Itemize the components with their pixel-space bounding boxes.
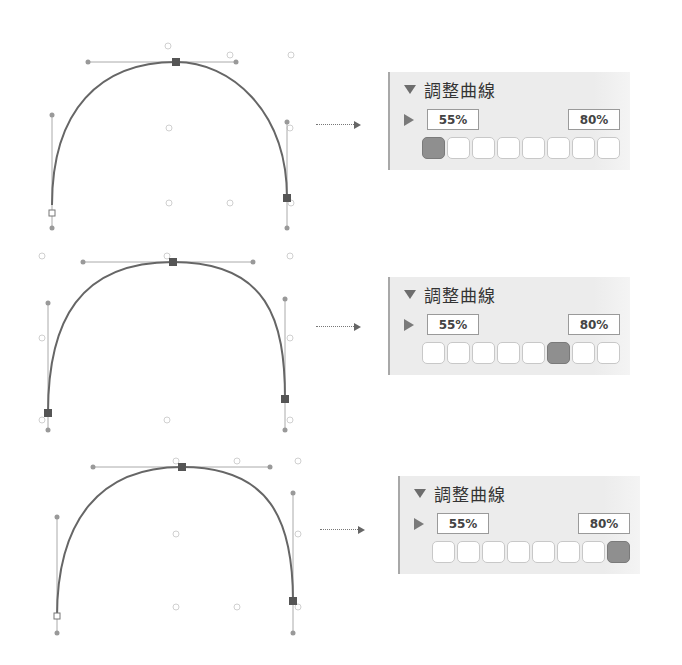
handle-point[interactable] bbox=[86, 60, 91, 65]
curve-preset-swatch-1[interactable] bbox=[422, 342, 445, 364]
arrow-head-icon bbox=[354, 323, 361, 331]
anchor-point[interactable] bbox=[172, 58, 180, 66]
curve-preset-swatch-2[interactable] bbox=[447, 342, 470, 364]
curve-preset-swatch-3[interactable] bbox=[472, 137, 495, 159]
anchor-point[interactable] bbox=[289, 597, 297, 605]
max-value-field[interactable]: 80% bbox=[578, 513, 630, 534]
curve-preset-swatch-7[interactable] bbox=[572, 342, 595, 364]
curve-preset-swatches bbox=[422, 342, 620, 364]
arrow-dotted-line bbox=[316, 326, 354, 327]
handle-point[interactable] bbox=[285, 226, 290, 231]
arrow-dotted-line bbox=[320, 529, 358, 530]
arrow-2 bbox=[316, 323, 362, 331]
curve-preset-swatch-8[interactable] bbox=[597, 342, 620, 364]
curve-preset-swatch-4[interactable] bbox=[497, 342, 520, 364]
handle-point[interactable] bbox=[285, 120, 290, 125]
handle-point[interactable] bbox=[55, 515, 60, 520]
curve-preset-swatch-5[interactable] bbox=[532, 541, 555, 563]
curve-preset-swatch-8[interactable] bbox=[607, 541, 630, 563]
bezier-path-2[interactable] bbox=[48, 262, 285, 413]
grid-guide-point bbox=[287, 253, 293, 259]
grid-guide-point bbox=[173, 531, 179, 537]
anchor-point[interactable] bbox=[44, 409, 52, 417]
curve-preset-swatch-2[interactable] bbox=[447, 137, 470, 159]
grid-guide-point bbox=[227, 200, 233, 206]
handle-point[interactable] bbox=[251, 260, 256, 265]
handle-point[interactable] bbox=[50, 226, 55, 231]
arrow-3 bbox=[320, 526, 366, 534]
grid-guide-point bbox=[234, 604, 240, 610]
curve-preset-swatch-7[interactable] bbox=[582, 541, 605, 563]
min-value-field[interactable]: 55% bbox=[437, 513, 489, 534]
disclosure-triangle-down-icon[interactable] bbox=[404, 290, 416, 299]
grid-guide-point bbox=[39, 253, 45, 259]
arrow-head-icon bbox=[358, 526, 365, 534]
bezier-curve-1[interactable] bbox=[0, 0, 360, 665]
max-value-field[interactable]: 80% bbox=[568, 109, 620, 130]
bezier-path-1[interactable] bbox=[52, 62, 287, 205]
open-anchor-point[interactable] bbox=[54, 613, 60, 619]
curve-preset-swatch-4[interactable] bbox=[507, 541, 530, 563]
curve-preset-swatch-5[interactable] bbox=[522, 342, 545, 364]
min-value-field[interactable]: 55% bbox=[427, 314, 479, 335]
handle-point[interactable] bbox=[46, 428, 51, 433]
bezier-path-3[interactable] bbox=[57, 467, 293, 617]
grid-guide-point bbox=[288, 52, 294, 58]
grid-guide-point bbox=[39, 417, 45, 423]
max-value-field[interactable]: 80% bbox=[568, 314, 620, 335]
curve-preset-swatch-3[interactable] bbox=[482, 541, 505, 563]
curve-preset-swatch-8[interactable] bbox=[597, 137, 620, 159]
handle-point[interactable] bbox=[55, 631, 60, 636]
curve-preset-swatch-1[interactable] bbox=[432, 541, 455, 563]
curve-preset-swatches bbox=[432, 541, 630, 563]
play-triangle-icon[interactable] bbox=[404, 114, 414, 126]
curve-preset-swatch-1[interactable] bbox=[422, 137, 445, 159]
curve-preset-swatch-5[interactable] bbox=[522, 137, 545, 159]
grid-guide-point bbox=[287, 125, 293, 131]
handle-point[interactable] bbox=[81, 260, 86, 265]
play-triangle-icon[interactable] bbox=[414, 518, 424, 530]
grid-guide-point bbox=[287, 417, 293, 423]
panel-title: 調整曲線 bbox=[424, 77, 496, 102]
adjust-curve-panel-1: 調整曲線 55% 80% bbox=[388, 72, 630, 170]
grid-guide-point bbox=[166, 200, 172, 206]
anchor-point[interactable] bbox=[178, 463, 186, 471]
anchor-point[interactable] bbox=[169, 258, 177, 266]
panel-header[interactable]: 調整曲線 bbox=[404, 78, 496, 100]
panel-title: 調整曲線 bbox=[434, 481, 506, 506]
disclosure-triangle-down-icon[interactable] bbox=[404, 85, 416, 94]
play-triangle-icon[interactable] bbox=[404, 319, 414, 331]
open-anchor-point[interactable] bbox=[49, 210, 55, 216]
handle-point[interactable] bbox=[283, 428, 288, 433]
anchor-point[interactable] bbox=[283, 194, 291, 202]
grid-guide-point bbox=[295, 458, 301, 464]
grid-guide-point bbox=[234, 458, 240, 464]
panel-header[interactable]: 調整曲線 bbox=[404, 283, 496, 305]
grid-guide-point bbox=[164, 417, 170, 423]
handle-point[interactable] bbox=[50, 113, 55, 118]
handle-point[interactable] bbox=[46, 301, 51, 306]
curve-preset-swatch-6[interactable] bbox=[547, 137, 570, 159]
min-value-field[interactable]: 55% bbox=[427, 109, 479, 130]
disclosure-triangle-down-icon[interactable] bbox=[414, 489, 426, 498]
anchor-point[interactable] bbox=[281, 395, 289, 403]
handle-point[interactable] bbox=[91, 465, 96, 470]
curve-preset-swatch-3[interactable] bbox=[472, 342, 495, 364]
curve-preset-swatch-6[interactable] bbox=[557, 541, 580, 563]
curve-preset-swatch-7[interactable] bbox=[572, 137, 595, 159]
handle-point[interactable] bbox=[283, 297, 288, 302]
curve-preset-swatch-6[interactable] bbox=[547, 342, 570, 364]
handle-point[interactable] bbox=[268, 465, 273, 470]
curve-preset-swatches bbox=[422, 137, 620, 159]
arrow-1 bbox=[316, 121, 362, 129]
handle-point[interactable] bbox=[291, 631, 296, 636]
handle-point[interactable] bbox=[291, 491, 296, 496]
panel-header[interactable]: 調整曲線 bbox=[414, 482, 506, 504]
grid-guide-point bbox=[39, 335, 45, 341]
panel-title: 調整曲線 bbox=[424, 282, 496, 307]
curve-preset-swatch-2[interactable] bbox=[457, 541, 480, 563]
handle-point[interactable] bbox=[234, 60, 239, 65]
curve-preset-swatch-4[interactable] bbox=[497, 137, 520, 159]
arrow-dotted-line bbox=[316, 124, 354, 125]
arrow-head-icon bbox=[354, 121, 361, 129]
